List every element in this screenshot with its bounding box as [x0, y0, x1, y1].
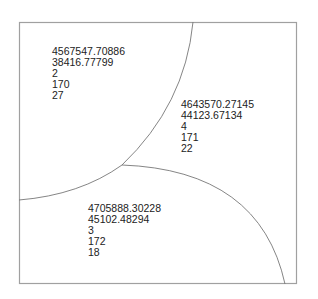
- cell-1-label: 4567547.70886 38416.77799 2 170 27: [52, 46, 125, 101]
- cell-3-label: 4705888.30228 45102.48294 3 172 18: [88, 203, 161, 258]
- cell-1-value-2: 38416.77799: [52, 57, 125, 68]
- cell-1-value-5: 27: [52, 90, 125, 101]
- cell-2-value-2: 44123.67134: [181, 110, 254, 121]
- diagram-canvas: 4567547.70886 38416.77799 2 170 27 46435…: [0, 0, 318, 299]
- cell-3-value-5: 18: [88, 247, 161, 258]
- cell-2-value-5: 22: [181, 143, 254, 154]
- cell-3-value-2: 45102.48294: [88, 214, 161, 225]
- cell-2-label: 4643570.27145 44123.67134 4 171 22: [181, 99, 254, 154]
